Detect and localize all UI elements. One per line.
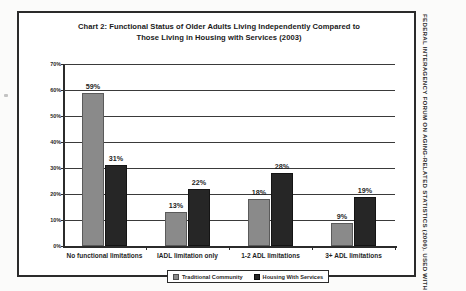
y-axis-tick-mark (61, 142, 64, 143)
scan-artifact-speck (4, 94, 8, 97)
legend-swatch-icon (254, 274, 260, 280)
y-axis-tick-labels: 70%60%50%40%30%20%10%0% (37, 64, 61, 246)
bar-0-2 (248, 199, 270, 246)
y-axis-tick-label: 70% (39, 61, 61, 67)
bar-0-1 (165, 212, 187, 246)
y-axis-tick-mark (61, 116, 64, 117)
bar-value-label: 28% (275, 162, 289, 171)
x-axis-line (63, 246, 397, 248)
bar-1-2 (271, 173, 293, 246)
y-axis-tick-mark (61, 64, 64, 65)
bar-value-label: 59% (86, 82, 100, 91)
x-axis-category-label: No functional limitations (67, 252, 143, 259)
x-axis-category-label: 3+ ADL limitations (325, 252, 382, 259)
bar-value-label: 19% (358, 186, 372, 195)
x-axis-category-label: 1-2 ADL limitations (241, 252, 300, 259)
bar-1-0 (105, 165, 127, 246)
y-axis-tick-mark (61, 168, 64, 169)
y-axis-tick-label: 30% (39, 165, 61, 171)
gridline (63, 116, 395, 117)
gridline (63, 64, 395, 65)
bar-1-3 (354, 197, 376, 246)
legend-label: Traditional Community (182, 274, 243, 280)
gridline (63, 90, 395, 91)
legend-swatch-icon (173, 274, 179, 280)
x-axis-tick-mark (395, 246, 396, 250)
bar-0-3 (331, 223, 353, 246)
legend-label: Housing With Services (263, 274, 324, 280)
y-axis-tick-label: 40% (39, 139, 61, 145)
chart-legend: Traditional CommunityHousing With Servic… (167, 270, 329, 283)
bar-value-label: 18% (252, 188, 266, 197)
y-axis-tick-mark (61, 246, 64, 247)
y-axis-tick-label: 0% (39, 243, 61, 249)
y-axis-tick-label: 20% (39, 191, 61, 197)
plot-area: 59%31%13%22%18%28%9%19% (63, 64, 395, 246)
x-axis-tick-mark (229, 246, 230, 250)
chart-title-line-2: Those Living in Housing with Services (2… (39, 33, 399, 44)
y-axis-tick-label: 50% (39, 113, 61, 119)
x-axis-tick-mark (312, 246, 313, 250)
legend-entry-1: Housing With Services (254, 274, 324, 280)
x-axis-category-label: IADL limitation only (157, 252, 218, 259)
chart-title: Chart 2: Functional Status of Older Adul… (39, 22, 399, 43)
y-axis-tick-label: 10% (39, 217, 61, 223)
y-axis-tick-mark (61, 90, 64, 91)
gridline (63, 142, 395, 143)
bar-value-label: 13% (169, 201, 183, 210)
y-axis-tick-mark (61, 220, 64, 221)
legend-entry-0: Traditional Community (173, 274, 243, 280)
chart-title-line-1: Chart 2: Functional Status of Older Adul… (78, 22, 360, 31)
y-axis-tick-label: 60% (39, 87, 61, 93)
source-credit-text: FEDERAL INTERAGENCY FORUM ON AGING-RELAT… (417, 14, 429, 276)
bar-0-0 (82, 93, 104, 246)
x-axis-tick-mark (146, 246, 147, 250)
chart-frame: Chart 2: Functional Status of Older Adul… (17, 11, 416, 277)
bar-value-label: 9% (337, 212, 347, 221)
bar-value-label: 22% (192, 178, 206, 187)
bar-value-label: 31% (109, 154, 123, 163)
bar-1-1 (188, 189, 210, 246)
y-axis-tick-mark (61, 194, 64, 195)
